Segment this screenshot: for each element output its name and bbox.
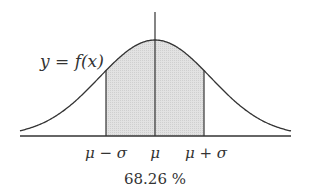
tick-mu-plus-sigma: μ + σ — [185, 144, 228, 162]
normal-distribution-chart: y = f(x) μ − σ μ μ + σ 68.26 % — [0, 0, 314, 196]
tick-mu: μ — [150, 144, 160, 162]
tick-mu-minus-sigma: μ − σ — [85, 144, 128, 162]
curve-label: y = f(x) — [39, 51, 104, 71]
percent-annotation: 68.26 % — [124, 170, 186, 188]
